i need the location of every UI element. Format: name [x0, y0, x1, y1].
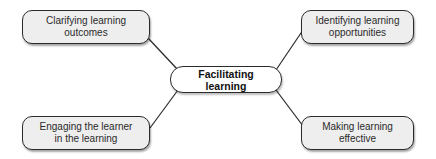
node-label-line: effective	[322, 133, 393, 145]
node-label-line: Making learning	[322, 121, 393, 133]
connector-bottom-right	[276, 90, 303, 126]
node-making-learning-effective: Making learning effective	[301, 116, 414, 150]
center-label: Facilitating learning	[177, 68, 275, 92]
node-clarifying-learning-outcomes: Clarifying learning outcomes	[22, 10, 150, 44]
node-engaging-the-learner: Engaging the learner in the learning	[22, 116, 150, 150]
connector-top-right	[276, 30, 303, 70]
connector-top-left	[148, 38, 178, 70]
node-label-line: outcomes	[46, 27, 126, 39]
connector-bottom-left	[150, 90, 178, 128]
node-identifying-learning-opportunities: Identifying learning opportunities	[301, 10, 414, 44]
node-label-line: Identifying learning	[316, 15, 400, 27]
node-facilitating-learning: Facilitating learning	[170, 66, 282, 93]
node-label-line: opportunities	[316, 27, 400, 39]
node-label-line: Engaging the learner	[40, 121, 133, 133]
mind-map-diagram: Clarifying learning outcomes Identifying…	[0, 0, 436, 159]
node-label-line: Clarifying learning	[46, 15, 126, 27]
node-label-line: in the learning	[40, 133, 133, 145]
